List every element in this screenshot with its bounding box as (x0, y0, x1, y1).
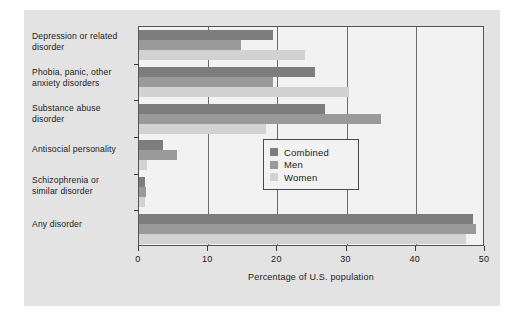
bar-men (139, 187, 146, 197)
category-label-substance: Substance abuse disorder (32, 103, 152, 124)
x-axis-tick (346, 246, 347, 251)
x-axis-tick (207, 246, 208, 251)
category-label-line1: Any disorder (32, 219, 152, 230)
category-label-line1: Phobia, panic, other (32, 67, 152, 78)
x-axis-tick-label: 50 (479, 254, 490, 264)
bar-men (139, 114, 381, 124)
bar-women (139, 197, 145, 207)
x-axis-tick-label: 30 (340, 254, 351, 264)
bar-combined (139, 67, 315, 77)
bar-combined (139, 30, 273, 40)
bar-combined (139, 214, 473, 224)
x-axis-tick (276, 246, 277, 251)
category-label-line1: Substance abuse (32, 103, 152, 114)
bar-group (139, 30, 483, 60)
category-label-line2: similar disorder (32, 186, 152, 197)
chart-figure: Depression or related disorder Phobia, p… (24, 10, 500, 306)
y-axis-tick (134, 210, 139, 211)
legend-swatch-combined (270, 148, 278, 156)
legend-swatch-women (270, 173, 278, 181)
legend-label-women: Women (284, 172, 318, 183)
x-axis-tick-label: 0 (135, 254, 140, 264)
bar-combined (139, 140, 163, 150)
category-label-phobia: Phobia, panic, other anxiety disorders (32, 67, 152, 88)
bar-women (139, 234, 466, 244)
bar-men (139, 77, 273, 87)
legend-item-combined: Combined (270, 147, 352, 158)
category-label-line1: Antisocial personality (32, 144, 152, 155)
legend-label-combined: Combined (284, 147, 329, 158)
category-label-line1: Schizophrenia or (32, 175, 152, 186)
bar-group (139, 67, 483, 97)
legend-swatch-men (270, 161, 278, 169)
y-axis-tick (134, 174, 139, 175)
x-axis-title: Percentage of U.S. population (138, 272, 484, 282)
bar-women (139, 160, 147, 170)
bar-women (139, 124, 266, 134)
bar-group (139, 104, 483, 134)
category-label-schizophrenia: Schizophrenia or similar disorder (32, 175, 152, 196)
bar-combined (139, 104, 325, 114)
bar-women (139, 87, 349, 97)
category-label-depression: Depression or related disorder (32, 31, 152, 52)
x-axis-tick-label: 10 (202, 254, 213, 264)
category-label-antisocial: Antisocial personality (32, 144, 152, 155)
bar-group (139, 214, 483, 244)
y-axis-tick (134, 64, 139, 65)
legend-item-men: Men (270, 159, 352, 170)
plot-area (138, 26, 484, 246)
category-label-line2: disorder (32, 42, 152, 53)
bar-men (139, 40, 241, 50)
category-label-line2: anxiety disorders (32, 78, 152, 89)
category-label-any-disorder: Any disorder (32, 219, 152, 230)
category-label-line1: Depression or related (32, 31, 152, 42)
legend-label-men: Men (284, 159, 303, 170)
x-axis-tick (138, 246, 139, 251)
bar-women (139, 50, 305, 60)
bar-men (139, 150, 177, 160)
x-axis-tick-label: 20 (271, 254, 282, 264)
y-axis-tick (134, 100, 139, 101)
bar-men (139, 224, 476, 234)
y-axis-tick (134, 137, 139, 138)
x-axis-tick (484, 246, 485, 251)
category-label-line2: disorder (32, 114, 152, 125)
chart-legend: Combined Men Women (263, 139, 359, 190)
legend-item-women: Women (270, 172, 352, 183)
x-axis-tick (415, 246, 416, 251)
bar-combined (139, 177, 145, 187)
x-axis-tick-label: 40 (409, 254, 420, 264)
